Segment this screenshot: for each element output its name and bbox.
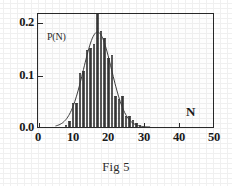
y-tick-label-0.2: 0.2 [19, 16, 34, 29]
histogram-bar [139, 125, 142, 127]
histogram-bar [114, 96, 117, 127]
histogram-bar [96, 14, 99, 127]
y-tick-label-0.1: 0.1 [19, 69, 34, 82]
histogram-bar [89, 48, 92, 127]
histogram-bar [82, 71, 85, 127]
figure-container: 0.2 0.1 0.0 0 10 20 30 40 50 P(N) N Fig … [0, 0, 232, 186]
histogram-bar [68, 121, 71, 127]
x-tick-label-0: 0 [35, 131, 41, 144]
histogram-bar [121, 96, 124, 127]
histogram-bar [125, 116, 128, 128]
y-axis-tick-labels: 0.2 0.1 0.0 [0, 0, 34, 186]
histogram-bar [118, 99, 121, 127]
histogram-bar [75, 103, 78, 127]
histogram-bar [135, 123, 138, 127]
y-axis-label: P(N) [47, 31, 66, 42]
figure-caption: Fig 5 [0, 160, 232, 175]
histogram-bar [86, 50, 89, 127]
x-tick-label-10: 10 [67, 131, 79, 144]
x-tick-label-20: 20 [102, 131, 114, 144]
histogram-bar [111, 55, 114, 127]
histogram-bar [65, 125, 68, 127]
x-tick-label-40: 40 [173, 131, 185, 144]
x-axis-label: N [186, 104, 195, 120]
x-axis-tick-labels: 0 10 20 30 40 50 [0, 131, 232, 151]
x-tick-label-30: 30 [138, 131, 150, 144]
histogram-bar [79, 73, 82, 127]
histogram-bar [107, 58, 110, 127]
histogram-bar [93, 44, 96, 127]
histogram-bar [100, 31, 103, 127]
histogram-bar [128, 116, 131, 127]
x-tick-label-50: 50 [208, 131, 220, 144]
histogram-bar [72, 103, 75, 127]
histogram-bar [132, 120, 135, 127]
histogram-bar [103, 38, 106, 127]
